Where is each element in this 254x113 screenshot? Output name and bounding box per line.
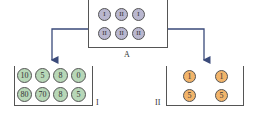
ball: 5: [35, 68, 50, 83]
ball: 1: [215, 70, 228, 83]
ball: 5: [183, 89, 196, 102]
ball: 80: [17, 87, 32, 102]
ball: 70: [35, 87, 50, 102]
ball: II: [98, 27, 111, 40]
arrow-to-II: [167, 29, 204, 60]
ball: II: [132, 27, 145, 40]
ball: 1: [183, 70, 196, 83]
ball: I: [98, 8, 111, 21]
label-a: A: [124, 50, 130, 59]
ball: 8: [53, 87, 68, 102]
ball: 5: [215, 89, 228, 102]
ball: 10: [17, 68, 32, 83]
ball: I: [132, 8, 145, 21]
arrow-to-I: [52, 29, 88, 60]
label-ii: II: [155, 98, 160, 107]
ball: II: [115, 27, 128, 40]
label-i: I: [96, 98, 99, 107]
ball: 5: [71, 87, 86, 102]
ball: 8: [53, 68, 68, 83]
ball: 0: [71, 68, 86, 83]
ball: II: [115, 8, 128, 21]
